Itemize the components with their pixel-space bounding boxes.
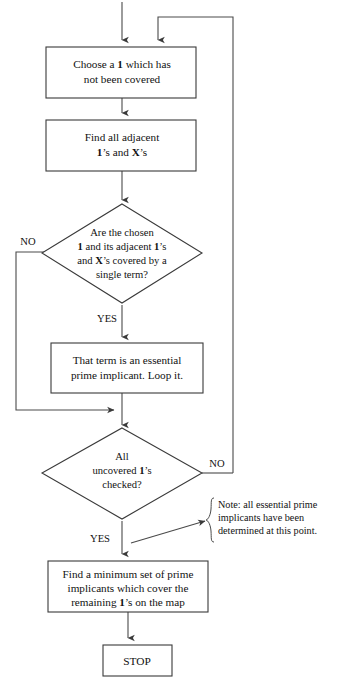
find-adjacent-line2: 1’s and X’s: [97, 146, 147, 158]
find-adjacent-line1: Find all adjacent: [85, 131, 160, 143]
decision1-line4: single term?: [96, 269, 148, 280]
flowchart-svg: Choose a 1 which has not been covered Fi…: [0, 0, 345, 682]
note-line3: determined at this point.: [218, 525, 317, 536]
essential-prime-line1: That term is an essential: [73, 354, 182, 366]
decision2-line2: uncovered 1’s: [92, 465, 151, 476]
minimum-set-line2: implicants which cover the: [68, 582, 189, 594]
note-brace: [206, 498, 214, 542]
essential-prime-line2: prime implicant. Loop it.: [71, 369, 183, 381]
label-decision1-no: NO: [20, 236, 36, 247]
note-line2: implicants have been: [218, 512, 304, 523]
label-decision2-yes: YES: [90, 533, 110, 544]
note-line1: Note: all essential prime: [218, 499, 318, 510]
choose-one-line2: not been covered: [84, 73, 161, 85]
node-single-term-decision: [42, 204, 202, 303]
connector-note-pointer: [131, 521, 205, 543]
decision2-line1: All: [115, 451, 129, 462]
minimum-set-line3: remaining 1’s on the map: [71, 596, 185, 608]
label-decision2-no: NO: [209, 458, 225, 469]
stop-label: STOP: [123, 655, 151, 667]
decision2-line3: checked?: [102, 479, 142, 490]
node-essential-prime-box: [51, 343, 203, 393]
decision1-line3: and X’s covered by a: [77, 255, 167, 266]
flowchart-canvas: Choose a 1 which has not been covered Fi…: [0, 0, 345, 682]
decision1-line2: 1 and its adjacent 1’s: [78, 241, 167, 252]
decision1-line1: Are the chosen: [90, 227, 154, 238]
label-decision1-yes: YES: [97, 313, 117, 324]
choose-one-line1: Choose a 1 which has: [73, 58, 171, 70]
minimum-set-line1: Find a minimum set of prime: [63, 568, 194, 580]
